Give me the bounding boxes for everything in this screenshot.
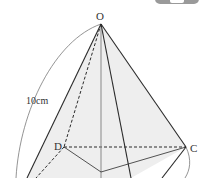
length-label: 10cm <box>26 95 48 106</box>
face-shading <box>27 24 186 178</box>
corner-tab-notch <box>170 0 184 3</box>
label-D: D <box>54 140 62 152</box>
right-arc <box>185 147 190 178</box>
pyramid-figure: O D C 10cm <box>0 0 201 178</box>
label-O: O <box>96 10 104 22</box>
pyramid-diagram: O D C 10cm <box>0 0 201 178</box>
label-C: C <box>190 142 197 154</box>
